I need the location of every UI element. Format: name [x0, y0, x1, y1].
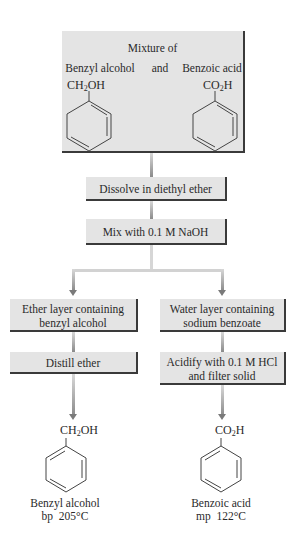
arrow-down-icon [69, 290, 77, 296]
product-right-name: Benzoic acid [176, 497, 266, 510]
ether-layer-box: Ether layer containing benzyl alcohol [10, 299, 138, 332]
mixture-box: Mixture of Benzyl alcohol and Benzoic ac… [62, 31, 245, 153]
mix-step-label: Mix with 0.1 M NaOH [86, 225, 225, 239]
arrow-down-icon [218, 414, 226, 420]
benzene-ring-icon [44, 438, 88, 494]
product-left-property: bp 205°C [20, 510, 110, 523]
product-right-property: mp 122°C [176, 510, 266, 523]
connector-line [150, 245, 153, 271]
distill-step-box: Distill ether [10, 352, 138, 374]
water-layer-line2: sodium benzoate [160, 316, 284, 330]
dissolve-step-label: Dissolve in diethyl ether [86, 182, 225, 196]
product-left-formula: CH2OH [60, 424, 98, 437]
connector-line [72, 332, 75, 352]
acidify-step-box: Acidify with 0.1 M HCl and filter solid [160, 352, 286, 385]
connector-line [150, 153, 153, 177]
acidify-step-line2: and filter solid [160, 369, 284, 383]
benzene-ring-icon [64, 91, 114, 151]
mixture-right-compound: Benzoic acid [172, 61, 252, 75]
water-layer-line1: Water layer containing [160, 302, 284, 316]
connector-line [72, 374, 75, 416]
connector-line [221, 269, 224, 291]
split-connector-line [72, 269, 224, 272]
mixture-title: Mixture of [62, 41, 243, 55]
connector-line [221, 385, 224, 416]
product-left-name: Benzyl alcohol [20, 497, 110, 510]
connector-line [221, 332, 224, 352]
ether-layer-line2: benzyl alcohol [10, 316, 136, 330]
water-layer-box: Water layer containing sodium benzoate [160, 299, 286, 332]
dissolve-step-box: Dissolve in diethyl ether [86, 177, 227, 201]
arrow-down-icon [218, 290, 226, 296]
arrow-down-icon [69, 414, 77, 420]
mixture-left-compound: Benzyl alcohol [50, 61, 150, 75]
connector-line [150, 201, 153, 219]
distill-step-label: Distill ether [10, 356, 136, 370]
product-right-formula: CO2H [215, 424, 244, 437]
ether-layer-line1: Ether layer containing [10, 302, 136, 316]
benzene-ring-icon [190, 91, 240, 151]
mixture-conjunction: and [148, 61, 172, 75]
connector-line [72, 269, 75, 291]
acidify-step-line1: Acidify with 0.1 M HCl [160, 355, 284, 369]
mix-step-box: Mix with 0.1 M NaOH [86, 219, 227, 245]
benzene-ring-icon [199, 438, 243, 494]
